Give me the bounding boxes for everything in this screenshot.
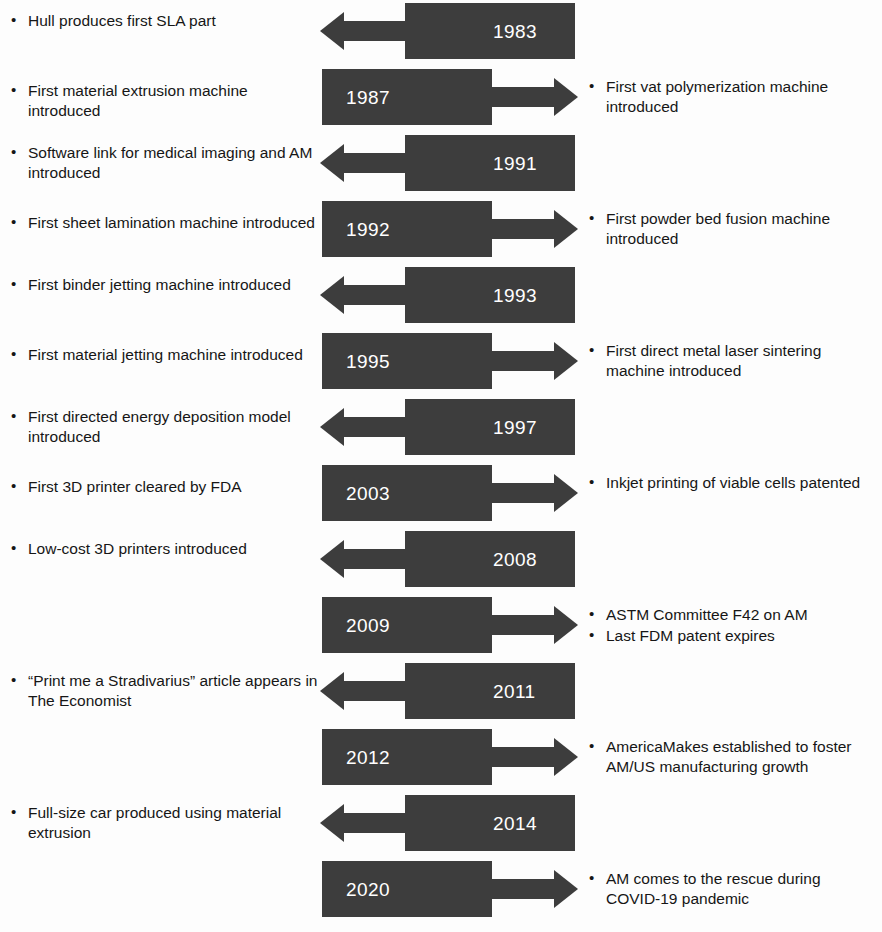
year-block: 1992 [322,201,492,257]
left-event-list: Low-cost 3D printers introduced [8,539,324,560]
right-event-list: Inkjet printing of viable cells patented [586,473,878,494]
year-label: 2012 [346,748,390,767]
year-label: 2009 [346,616,390,635]
arrow-head-right-icon [554,210,578,248]
arrow-shaft [488,219,554,239]
arrow-head-right-icon [554,606,578,644]
left-event-list: Hull produces first SLA part [8,11,324,32]
year-label: 1997 [493,418,537,437]
left-event-list: First directed energy deposition model i… [8,407,324,447]
list-item: First material extrusion machine introdu… [8,81,324,120]
year-label: 2008 [493,550,537,569]
timeline-row: 2014Full-size car produced using materia… [0,795,882,851]
year-block: 2009 [322,597,492,653]
right-event-list: ASTM Committee F42 on AMLast FDM patent … [586,605,878,646]
year-label: 1987 [346,88,390,107]
list-item: First direct metal laser sintering machi… [586,341,878,380]
arrow-shaft [344,153,409,173]
list-item: Low-cost 3D printers introduced [8,539,324,559]
list-item: First 3D printer cleared by FDA [8,477,324,497]
year-block: 1997 [405,399,575,455]
year-block: 2008 [405,531,575,587]
list-item: First sheet lamination machine introduce… [8,213,324,233]
year-block: 2003 [322,465,492,521]
arrow-head-right-icon [554,342,578,380]
timeline-row: 1993First binder jetting machine introdu… [0,267,882,323]
arrow-shaft [344,549,409,569]
list-item: First directed energy deposition model i… [8,407,324,446]
left-event-list: “Print me a Stradivarius” article appear… [8,671,324,711]
year-label: 2003 [346,484,390,503]
left-event-list-extra: First material extrusion machine introdu… [8,81,324,121]
arrow-shaft [344,285,409,305]
timeline-row: 2020AM comes to the rescue during COVID-… [0,861,882,917]
left-event-list-extra: First material jetting machine introduce… [8,345,324,366]
year-label: 1983 [493,22,537,41]
arrow-head-right-icon [554,870,578,908]
timeline-row: 2009ASTM Committee F42 on AMLast FDM pat… [0,597,882,653]
arrow-shaft [488,615,554,635]
left-event-list: First binder jetting machine introduced [8,275,324,296]
year-label: 1995 [346,352,390,371]
list-item: First powder bed fusion machine introduc… [586,209,878,248]
list-item: AM comes to the rescue during COVID-19 p… [586,869,878,908]
list-item: First binder jetting machine introduced [8,275,324,295]
arrow-shaft [488,87,554,107]
arrow-shaft [488,483,554,503]
year-block: 2011 [405,663,575,719]
arrow-shaft [488,351,554,371]
left-event-list: Full-size car produced using material ex… [8,803,324,843]
list-item: ASTM Committee F42 on AM [586,605,878,625]
list-item: Inkjet printing of viable cells patented [586,473,878,493]
timeline-row: 1991Software link for medical imaging an… [0,135,882,191]
year-block: 2014 [405,795,575,851]
right-event-list: AM comes to the rescue during COVID-19 p… [586,869,878,909]
year-label: 2014 [493,814,537,833]
list-item: Last FDM patent expires [586,626,878,646]
year-label: 2011 [493,682,535,701]
year-label: 1992 [346,220,390,239]
list-item: Hull produces first SLA part [8,11,324,31]
arrow-shaft [344,21,409,41]
arrow-head-right-icon [554,738,578,776]
year-block: 1987 [322,69,492,125]
year-block: 1993 [405,267,575,323]
arrow-shaft [344,813,409,833]
arrow-shaft [488,747,554,767]
timeline-row: 2012AmericaMakes established to foster A… [0,729,882,785]
year-block: 1995 [322,333,492,389]
right-event-list: First powder bed fusion machine introduc… [586,209,878,249]
year-label: 1991 [493,154,537,173]
timeline-row: 1997First directed energy deposition mod… [0,399,882,455]
list-item: Software link for medical imaging and AM… [8,143,324,182]
timeline-row: 2011“Print me a Stradivarius” article ap… [0,663,882,719]
year-label: 1993 [493,286,537,305]
year-block: 1983 [405,3,575,59]
year-block: 2012 [322,729,492,785]
left-event-list: Software link for medical imaging and AM… [8,143,324,183]
right-event-list: First vat polymerization machine introdu… [586,77,878,117]
list-item: First vat polymerization machine introdu… [586,77,878,116]
left-event-list-extra: First 3D printer cleared by FDA [8,477,324,498]
left-event-list-extra: First sheet lamination machine introduce… [8,213,324,234]
list-item: “Print me a Stradivarius” article appear… [8,671,324,710]
timeline-row: 1983Hull produces first SLA part [0,3,882,59]
list-item: First material jetting machine introduce… [8,345,324,365]
list-item: Full-size car produced using material ex… [8,803,324,842]
right-event-list: AmericaMakes established to foster AM/US… [586,737,878,777]
arrow-shaft [344,681,409,701]
list-item: AmericaMakes established to foster AM/US… [586,737,878,776]
year-label: 2020 [346,880,390,899]
year-block: 1991 [405,135,575,191]
timeline-row: 2008Low-cost 3D printers introduced [0,531,882,587]
am-timeline-diagram: 1983Hull produces first SLA part1987Firs… [0,0,882,932]
arrow-shaft [488,879,554,899]
arrow-head-right-icon [554,78,578,116]
arrow-head-right-icon [554,474,578,512]
year-block: 2020 [322,861,492,917]
arrow-shaft [344,417,409,437]
right-event-list: First direct metal laser sintering machi… [586,341,878,381]
